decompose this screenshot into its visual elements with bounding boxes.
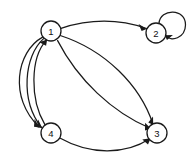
node-3[interactable]: 3: [147, 123, 167, 143]
node-1-circle[interactable]: [41, 21, 61, 41]
edge-1-to-3-upper: [60, 36, 153, 125]
edge-4-to-1-inner: [34, 39, 47, 124]
edge-1-to-2-path: [61, 21, 147, 28]
graph-canvas: 1 2 3 4: [0, 0, 191, 162]
edge-4-to-3-bottom: [60, 138, 151, 151]
edge-1-to-2-arrowhead: [139, 24, 147, 31]
node-4[interactable]: 4: [41, 123, 61, 143]
edge-1-to-2: [61, 21, 147, 31]
edge-4-to-1-inner-path: [34, 40, 47, 124]
node-2-circle[interactable]: [146, 23, 166, 43]
edge-1-to-3-upper-path: [60, 36, 153, 125]
edge-4-to-3-bottom-path: [60, 138, 150, 151]
edge-1-to-4-middle-path: [27, 39, 44, 128]
node-4-circle[interactable]: [41, 123, 61, 143]
graph-figure: 1 2 3 4: [0, 0, 191, 162]
node-2[interactable]: 2: [146, 23, 166, 43]
edge-1-to-4-middle-arrowhead: [37, 119, 42, 128]
edge-1-to-3-lower-path: [58, 41, 151, 129]
node-3-circle[interactable]: [147, 123, 167, 143]
edge-1-to-3-lower: [58, 41, 151, 131]
node-layer: 1 2 3 4: [41, 21, 167, 143]
node-1[interactable]: 1: [41, 21, 61, 41]
